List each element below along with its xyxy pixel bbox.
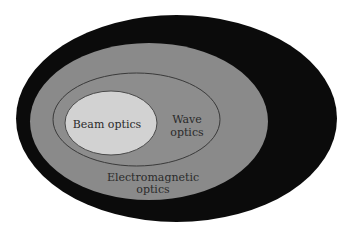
nested-optics-diagram: Beam optics Wave optics Electromagnetic … [0,0,351,233]
electromagnetic-optics-label-line2: optics [136,183,170,196]
wave-optics-label-line1: Wave [172,113,202,126]
beam-optics-label: Beam optics [73,118,142,131]
wave-optics-label-line2: optics [170,126,204,139]
